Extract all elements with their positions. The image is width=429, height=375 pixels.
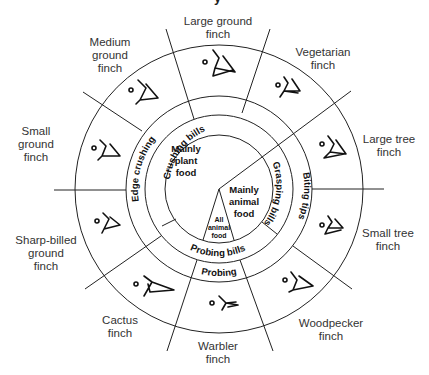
svg-text:animal: animal bbox=[229, 196, 259, 207]
svg-text:finch: finch bbox=[206, 28, 230, 40]
svg-text:food: food bbox=[176, 167, 197, 178]
label-large-tree-finch: Large treefinch bbox=[363, 133, 415, 158]
svg-text:Cactus: Cactus bbox=[102, 314, 138, 326]
svg-text:finch: finch bbox=[24, 151, 48, 163]
svg-text:finch: finch bbox=[98, 62, 122, 74]
finch-beak-icon bbox=[320, 216, 343, 234]
probing-label: Probing bbox=[201, 265, 238, 278]
svg-text:ground: ground bbox=[28, 247, 64, 259]
svg-text:food: food bbox=[211, 232, 226, 239]
svg-text:finch: finch bbox=[34, 260, 58, 272]
label-large-ground-finch: Large groundfinch bbox=[184, 15, 252, 40]
svg-text:finch: finch bbox=[377, 146, 401, 158]
spokes bbox=[54, 29, 384, 351]
finch-beak-icon bbox=[320, 136, 346, 158]
svg-text:Mainly: Mainly bbox=[229, 184, 259, 195]
center-animal-food: Mainly animal food bbox=[229, 184, 260, 219]
finch-beak-icon bbox=[134, 276, 174, 296]
edge-crushing-label: Edge crushing bbox=[129, 134, 157, 203]
svg-text:Woodpecker: Woodpecker bbox=[299, 317, 364, 329]
finch-beak-icon bbox=[129, 80, 158, 104]
svg-text:finch: finch bbox=[311, 59, 335, 71]
svg-text:finch: finch bbox=[108, 327, 132, 339]
finch-beak-icon bbox=[203, 50, 235, 76]
label-cactus-finch: Cactusfinch bbox=[102, 314, 138, 339]
center-all-animal-food: All animal food bbox=[208, 216, 230, 239]
label-small-tree-finch: Small treefinch bbox=[362, 227, 414, 252]
label-small-ground-finch: Smallgroundfinch bbox=[18, 125, 54, 163]
finch-beak-icon bbox=[210, 296, 238, 310]
finch-beak-icon bbox=[95, 213, 120, 233]
title-fragment: y bbox=[214, 0, 222, 5]
finch-beak-icon bbox=[283, 272, 313, 292]
svg-text:finch: finch bbox=[319, 330, 343, 342]
label-vegetarian-finch: Vegetarianfinch bbox=[296, 46, 351, 71]
svg-text:finch: finch bbox=[206, 353, 230, 365]
probing-bills-label: Probing bills bbox=[189, 241, 247, 258]
svg-text:Small tree: Small tree bbox=[362, 227, 414, 239]
biting-tips-label: Biting tips bbox=[296, 172, 313, 222]
svg-text:animal: animal bbox=[208, 224, 230, 231]
finch-beak-icon bbox=[92, 140, 120, 160]
svg-text:Large ground: Large ground bbox=[184, 15, 252, 27]
svg-text:finch: finch bbox=[376, 240, 400, 252]
label-sharp-billed-ground-finch: Sharp-billedgroundfinch bbox=[15, 234, 76, 272]
grasping-bills-label: Grasping bills bbox=[262, 160, 285, 228]
svg-text:Warbler: Warbler bbox=[198, 340, 238, 352]
label-woodpecker-finch: Woodpeckerfinch bbox=[299, 317, 364, 342]
svg-text:Medium: Medium bbox=[90, 36, 131, 48]
svg-text:Large tree: Large tree bbox=[363, 133, 415, 145]
svg-text:All: All bbox=[215, 216, 224, 223]
svg-text:food: food bbox=[234, 208, 255, 219]
svg-text:Vegetarian: Vegetarian bbox=[296, 46, 351, 58]
label-medium-ground-finch: Mediumgroundfinch bbox=[90, 36, 131, 74]
svg-text:ground: ground bbox=[92, 49, 128, 61]
finch-diet-diagram: y Mainly plant food Mainly animal food bbox=[0, 0, 429, 375]
svg-text:Small: Small bbox=[22, 125, 51, 137]
label-warbler-finch: Warblerfinch bbox=[198, 340, 238, 365]
finch-beak-icon bbox=[276, 77, 300, 97]
svg-text:ground: ground bbox=[18, 138, 54, 150]
svg-text:Sharp-billed: Sharp-billed bbox=[15, 234, 76, 246]
